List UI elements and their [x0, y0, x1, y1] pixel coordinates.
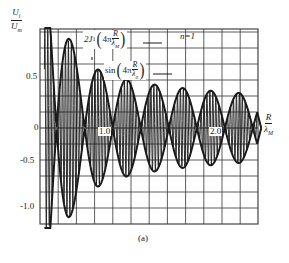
legend-sine: sin ( 4π R λ0 ) — [104, 61, 146, 80]
close-paren: ) — [139, 61, 144, 81]
x-axis-label: R λM — [264, 113, 273, 136]
legend-bessel: 2J1 ( 4π R λM ) — [83, 30, 127, 49]
x-tick-1-0: 1.0 — [98, 127, 111, 136]
open-paren: ( — [117, 61, 122, 81]
legend-sine-arg: 4π — [123, 66, 132, 75]
annotation-n: n=1 — [180, 32, 195, 41]
y-tick-minus-0-5: -0.5 — [20, 156, 34, 165]
y-tick-0: 0 — [34, 123, 39, 132]
x-label-den-sub: M — [268, 130, 273, 136]
open-paren: ( — [97, 30, 102, 50]
y-label-den-sub: m — [18, 27, 22, 33]
legend-bessel-sub: 1 — [93, 36, 96, 42]
legend-bessel-fraction: R λM — [112, 30, 120, 49]
panel-caption: (a) — [138, 233, 148, 243]
legend-sine-prefix: sin — [105, 66, 116, 75]
legend-sine-frac-den-sub: 0 — [135, 75, 138, 80]
legend-bessel-frac-den-sub: M — [115, 44, 119, 49]
y-tick-minus-1-0: -1.0 — [20, 202, 34, 211]
x-tick-2-0: 2.0 — [209, 127, 222, 136]
x-label-num: R — [265, 113, 273, 124]
legend-bessel-prefix: 2J — [84, 35, 93, 44]
legend-sine-fraction: R λ0 — [132, 61, 139, 80]
y-tick-0-5: 0.5 — [26, 72, 37, 81]
close-paren: ) — [120, 30, 125, 50]
y-axis-label: Ui Um — [11, 8, 22, 33]
y-label-num-sub: i — [19, 13, 21, 19]
legend-bessel-arg: 4π — [103, 35, 112, 44]
chart-plot — [0, 0, 289, 263]
